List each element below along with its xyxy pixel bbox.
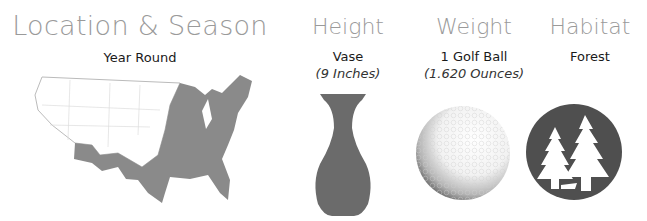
vase-icon [312,94,374,218]
location-season-heading: Location & Season [0,10,280,41]
height-value: (9 Inches) [292,66,404,81]
season-label: Year Round [0,50,280,65]
golf-ball-icon [415,105,511,201]
height-comparison: Vase [292,49,404,64]
us-range-map-icon [30,75,260,220]
forest-icon [525,103,623,201]
weight-heading: Weight [408,14,540,39]
weight-comparison: 1 Golf Ball [408,49,540,64]
habitat-value: Forest [540,49,640,64]
weight-value: (1.620 Ounces) [408,66,540,81]
height-heading: Height [292,14,404,39]
habitat-heading: Habitat [540,14,640,39]
